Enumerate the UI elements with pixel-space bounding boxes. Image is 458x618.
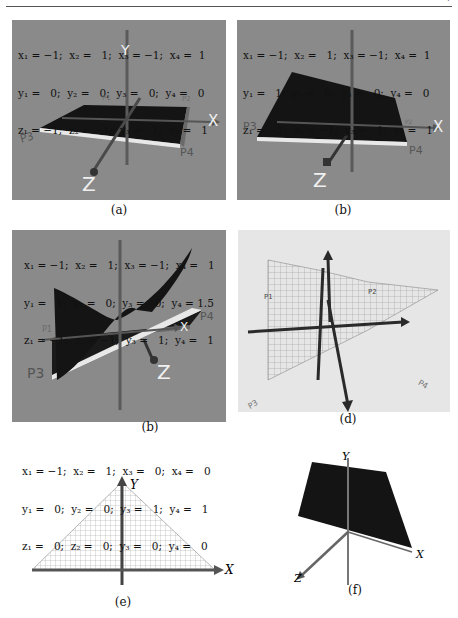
axis-label-z: Z — [294, 572, 302, 585]
equation-y: y₁ = 1; y₂ = 0; y₃ = 0; y₄ = 1.5 — [24, 297, 215, 310]
figure-panel-e: x₁ = −1; x₂ = 1; x₃ = 0; x₄ = 0 y₁ = 0; … — [10, 440, 240, 595]
caption-d: (d) — [328, 412, 368, 426]
caption-a: (a) — [99, 203, 139, 217]
point-label-p4: P4 — [409, 144, 423, 157]
point-label-p1: P1 — [264, 293, 273, 301]
figure-panel-d: P1 P2 P3 P4 — [238, 230, 450, 412]
equation-block: x₁ = −1; x₂ = 1; x₃ = −1; x₄ = 1 y₁ = 1;… — [243, 24, 433, 162]
caption-b: (b) — [323, 203, 363, 217]
caption-e: (e) — [103, 595, 143, 609]
equation-z: z₁ = −1; z₂ = −1; y₃ = 1; y₄ = 1 — [18, 124, 208, 137]
equation-z: z₁ = −1; z₂ = −1; y₃ = 1; y₄ = 1 — [243, 124, 433, 137]
equation-x: x₁ = −1; x₂ = 1; x₃ = −1; x₄ = 1 — [18, 49, 208, 62]
point-label-p4: P4 — [200, 310, 214, 323]
point-label-p2: P2 — [368, 288, 377, 296]
figure-panel-c: x₁ = −1; x₂ = 1; x₃ = −1; x₄ = 1 y₁ = 1;… — [12, 230, 226, 422]
axis-label-x: X — [433, 118, 443, 136]
point-label-p3: P3 — [27, 365, 44, 381]
point-label-p3: P3 — [243, 120, 257, 133]
equation-y: y₁ = 0; y₂ = 0; y₃ = 1; y₄ = 1 — [22, 503, 211, 516]
equation-x: x₁ = −1; x₂ = 1; x₃ = 0; x₄ = 0 — [22, 465, 211, 478]
axis-label-z: Z — [157, 360, 171, 384]
equation-x: x₁ = −1; x₂ = 1; x₃ = −1; x₄ = 1 — [24, 259, 215, 272]
axis-label-z: Z — [82, 172, 96, 196]
equation-z: z₁ = 0; z₂ = 0; y₃ = 0; y₄ = 0 — [22, 540, 211, 553]
caption-f: (f) — [335, 583, 375, 597]
axis-label-x: X — [225, 563, 234, 577]
equation-x: x₁ = −1; x₂ = 1; x₃ = −1; x₄ = 1 — [243, 49, 433, 62]
equation-block: x₁ = −1; x₂ = 1; x₃ = 0; x₄ = 0 y₁ = 0; … — [22, 440, 211, 578]
figure-panel-f: Y X Z — [290, 450, 450, 595]
axis-label-x: X — [180, 320, 188, 334]
equation-y: y₁ = 1; y₂ = 0; y₃ = 0; y₄ = 0 — [243, 87, 433, 100]
point-label-p1: P1 — [102, 94, 111, 102]
axis-label-y: Y — [121, 42, 130, 58]
point-label-p1: P1 — [42, 325, 52, 334]
axis-label-x: X — [416, 548, 424, 561]
tilted-plane-render — [290, 450, 450, 595]
figure-panel-a: x₁ = −1; x₂ = 1; x₃ = −1; x₄ = 1 y₁ = 0;… — [12, 20, 226, 200]
axis-label-x: X — [208, 112, 218, 130]
point-label-p2: P2 — [182, 95, 191, 103]
page-header-mark: 7 — [446, 0, 452, 3]
equation-block: x₁ = −1; x₂ = 1; x₃ = −1; x₄ = 1 y₁ = 1;… — [24, 234, 215, 372]
axis-label-y: Y — [130, 478, 138, 492]
point-label-p4: P4 — [180, 146, 194, 159]
equation-block: x₁ = −1; x₂ = 1; x₃ = −1; x₄ = 1 y₁ = 0;… — [18, 24, 208, 162]
equation-y: y₁ = 0; y₂ = 0; y₃ = 0; y₄ = 0 — [18, 87, 208, 100]
caption-c: (b) — [130, 420, 170, 434]
equation-z: z₁ = −1; z₂ = −1; y₃ = 1; y₄ = 1 — [24, 334, 215, 347]
page-header-rule — [6, 6, 452, 7]
axis-label-y: Y — [342, 450, 349, 463]
axis-label-z: Z — [313, 168, 327, 192]
figure-panel-b: x₁ = −1; x₂ = 1; x₃ = −1; x₄ = 1 y₁ = 1;… — [237, 20, 450, 200]
point-label-p2: P2 — [405, 118, 412, 125]
